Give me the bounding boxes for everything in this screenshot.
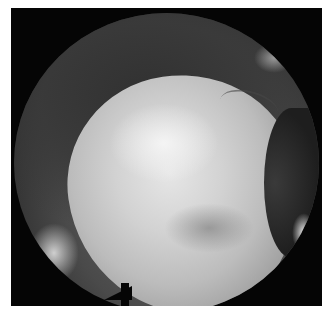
mass-shadow [164, 203, 254, 253]
arthroscopic-view [14, 13, 319, 306]
mass-highlight [109, 103, 219, 183]
upper-right-reflection [254, 43, 294, 73]
lower-left-reflection [29, 223, 79, 283]
lower-right-reflection [292, 213, 316, 253]
scope-orientation-notch-edge [121, 283, 129, 306]
image-frame [11, 8, 322, 306]
